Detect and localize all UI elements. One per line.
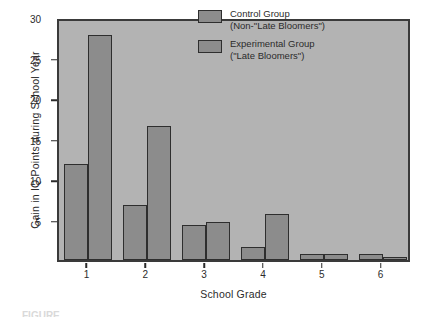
legend-swatch-icon (198, 10, 222, 23)
chart-legend: Control Group (Non-"Late Bloomers") Expe… (198, 8, 348, 68)
legend-label-experimental: Experimental Group ("Late Bloomers") (230, 38, 314, 61)
legend-label-control-line2: (Non-"Late Bloomers") (230, 20, 325, 31)
y-tick-label: 20 (30, 95, 41, 106)
y-tick-label: 10 (30, 176, 41, 187)
y-axis-ticks: 51015202530 (0, 0, 50, 317)
x-tick-label-grade-4: 4 (260, 269, 266, 280)
legend-label-control: Control Group (Non-"Late Bloomers") (230, 8, 325, 31)
x-tick-mark (321, 263, 323, 268)
x-tick-mark (380, 263, 382, 268)
x-tick-label-grade-3: 3 (201, 269, 207, 280)
y-tick-label: 5 (35, 216, 41, 227)
figure-chart: Gain in IQ Points during School Year 510… (0, 0, 425, 317)
x-tick-label-grade-2: 2 (142, 269, 148, 280)
legend-label-control-line1: Control Group (230, 8, 290, 19)
bar-control-grade-5 (300, 254, 324, 260)
x-tick-mark (145, 263, 147, 268)
x-axis-title: School Grade (57, 288, 410, 300)
bar-experimental-grade-2 (147, 126, 171, 260)
x-tick-mark (203, 263, 205, 268)
y-tick-label: 30 (30, 14, 41, 25)
legend-label-experimental-line2: ("Late Bloomers") (230, 50, 304, 61)
legend-item-experimental: Experimental Group ("Late Bloomers") (198, 38, 348, 61)
bar-control-grade-3 (182, 225, 206, 260)
x-tick-mark (262, 263, 264, 268)
y-tick-label: 25 (30, 54, 41, 65)
figure-caption: FIGURE (22, 310, 60, 317)
bar-experimental-grade-4 (265, 214, 289, 260)
legend-label-experimental-line1: Experimental Group (230, 38, 314, 49)
bar-experimental-grade-5 (324, 254, 348, 260)
legend-swatch-icon (198, 40, 222, 53)
x-tick-label-grade-6: 6 (378, 269, 384, 280)
bar-control-grade-2 (123, 205, 147, 260)
x-tick-mark (86, 263, 88, 268)
bar-experimental-grade-6 (383, 257, 407, 260)
x-tick-label-grade-1: 1 (84, 269, 90, 280)
bar-control-grade-6 (359, 254, 383, 260)
y-tick-label: 15 (30, 135, 41, 146)
bar-experimental-grade-1 (88, 35, 112, 260)
legend-item-control: Control Group (Non-"Late Bloomers") (198, 8, 348, 31)
bar-control-grade-1 (64, 164, 88, 260)
bar-control-grade-4 (241, 247, 265, 260)
x-tick-label-grade-5: 5 (319, 269, 325, 280)
bar-experimental-grade-3 (206, 222, 230, 260)
